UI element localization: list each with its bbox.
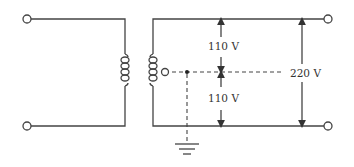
total-voltage-label: 220 V	[290, 67, 321, 79]
neutral-junction-dot	[185, 70, 189, 74]
primary-wire-bottom	[31, 86, 125, 126]
secondary-circuit	[149, 15, 332, 154]
secondary-terminal-bottom	[324, 122, 332, 130]
center-tap-terminal	[162, 69, 169, 76]
ground-icon	[175, 144, 199, 154]
lower-voltage-label: 110 V	[208, 92, 239, 104]
secondary-winding-icon	[149, 54, 157, 86]
primary-terminal-bottom	[23, 122, 31, 130]
upper-voltage-label: 110 V	[208, 40, 239, 52]
primary-circuit	[23, 15, 129, 130]
primary-wire-top	[31, 19, 125, 54]
transformer-diagram: 110 V 110 V 220 V	[0, 0, 354, 167]
primary-winding-icon	[121, 54, 129, 86]
primary-terminal-top	[23, 15, 31, 23]
secondary-terminal-top	[324, 15, 332, 23]
